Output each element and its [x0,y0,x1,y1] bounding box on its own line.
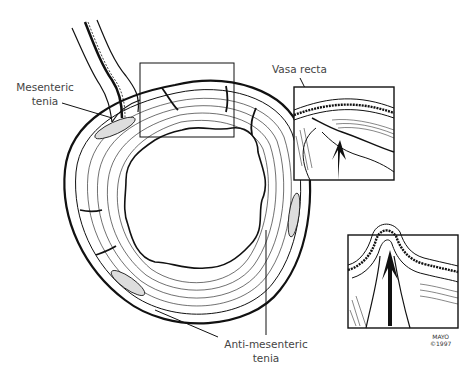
mesenteric-label-line2: tenia [14,94,76,108]
colon-diagram [0,0,475,377]
wall-vessels [80,86,256,255]
mayo-credit: MAYO ©1997 [430,334,451,347]
mesentery-vessels [72,20,140,122]
colon-wall [64,81,310,324]
mesenteric-tenia-label: Mesenteric tenia [14,80,76,108]
inset-diverticulum [348,224,458,328]
anti-mesenteric-tenia-label: Anti-mesenteric tenia [218,337,314,365]
anti-mesenteric-label-line1: Anti-mesenteric [218,337,314,351]
zoom-region-box [140,63,234,137]
mesenteric-label-line1: Mesenteric [14,80,76,94]
inset-vasa-recta [294,87,394,180]
anti-mesenteric-tenia-right [286,193,302,238]
vasa-recta-label: Vasa recta [272,62,327,76]
credit-line2: ©1997 [430,341,451,348]
leader-lines [62,78,316,337]
anti-mesenteric-label-line2: tenia [218,351,314,365]
